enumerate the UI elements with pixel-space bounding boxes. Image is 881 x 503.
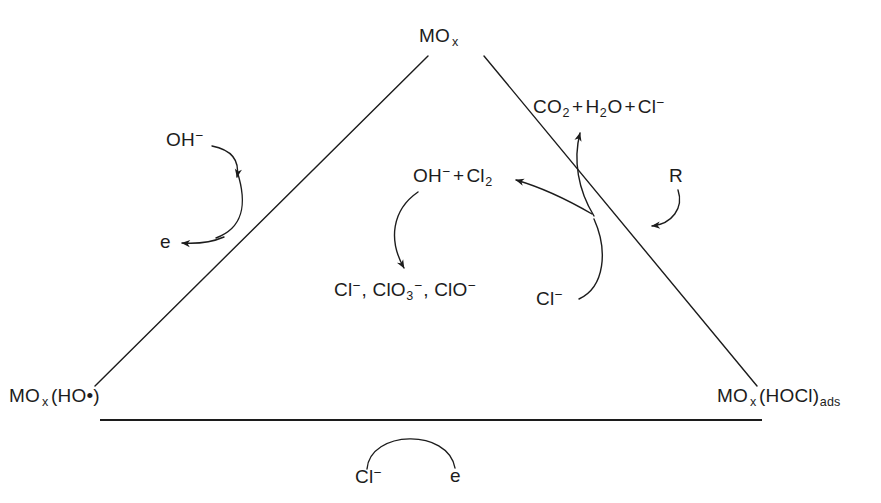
hydroxide-inbound-arrow — [212, 146, 238, 177]
species-sep1: , — [362, 279, 373, 300]
label-organic-reactant: R — [669, 166, 683, 185]
oxid-plus2: + — [622, 96, 635, 117]
oxid-h2o-o: O — [607, 96, 622, 117]
center-sub2: 2 — [485, 175, 493, 189]
vertex-br-subscript-ads: ads — [819, 395, 841, 409]
label-chloride-bottom: Cl− — [355, 466, 383, 486]
vertex-br-base: MO — [717, 385, 748, 406]
oxidation-products-arrow — [577, 133, 594, 216]
chloride-bottom-base: Cl — [355, 466, 373, 487]
organic-reactant-arrow — [652, 190, 680, 226]
hydroxide-charge: − — [195, 128, 204, 143]
species-clo3-sub: 3 — [406, 289, 414, 303]
chloride-bottom-charge: − — [373, 465, 382, 480]
species-clo3-charge: − — [414, 278, 423, 293]
label-electron-left: e — [160, 232, 171, 251]
vertex-label-bottom-left: MOx(HO•) — [9, 386, 100, 408]
triangle-left-edge — [95, 56, 428, 386]
label-center-products: OH−+Cl2 — [413, 165, 493, 188]
chloride-right-base: Cl — [536, 288, 554, 309]
label-hydroxide-reactant: OH− — [166, 129, 204, 149]
oxid-cl-charge: − — [656, 95, 665, 110]
label-chloride-right: Cl− — [536, 288, 564, 308]
oxid-co2: CO — [533, 96, 562, 117]
diagram-canvas — [0, 0, 881, 503]
center-part1: OH — [413, 165, 442, 186]
hydroxide-base: OH — [166, 129, 195, 150]
species-clo-charge: − — [467, 278, 476, 293]
oxid-cl: Cl — [636, 96, 656, 117]
label-chlorine-species: Cl−, ClO3−, ClO− — [334, 279, 477, 302]
chlorine-speciation-arrow — [395, 192, 418, 268]
reaction-mechanism-diagram: MOx MOx(HO•) MOx(HOCl)ads OH− e OH−+Cl2 … — [0, 0, 881, 503]
species-cl: Cl — [334, 279, 352, 300]
chloride-right-charge: − — [554, 287, 563, 302]
vertex-br-subscript: x — [748, 395, 757, 409]
oxid-co2-sub: 2 — [562, 106, 570, 120]
vertex-br-rest: (HOCl) — [757, 385, 819, 406]
vertex-top-base: MO — [419, 25, 450, 46]
vertex-top-subscript: x — [450, 35, 459, 49]
center-charge1: − — [442, 164, 451, 179]
species-clo3: ClO — [373, 279, 406, 300]
species-sep2: , — [423, 279, 434, 300]
label-electron-bottom: e — [450, 466, 461, 485]
left-edge-curve — [216, 171, 242, 238]
center-plus: + — [451, 165, 464, 186]
species-clo: ClO — [434, 279, 467, 300]
label-oxidation-products: CO2+H2O+Cl− — [533, 96, 665, 119]
vertex-bl-base: MO — [9, 385, 40, 406]
oxid-plus1: + — [570, 96, 583, 117]
vertex-bl-subscript: x — [40, 395, 49, 409]
vertex-bl-rest: (HO•) — [49, 385, 100, 406]
species-cl-charge: − — [352, 278, 361, 293]
center-part2: Cl — [464, 165, 484, 186]
vertex-label-top: MOx — [419, 26, 459, 48]
oxid-h2o: H — [583, 96, 599, 117]
vertex-label-bottom-right: MOx(HOCl)ads — [717, 386, 841, 408]
chloride-right-curve — [579, 219, 602, 299]
